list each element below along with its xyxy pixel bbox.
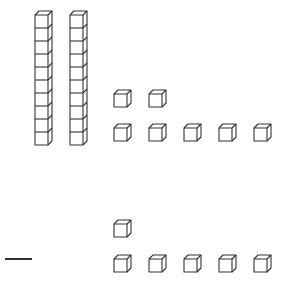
base-ten-diagram	[0, 0, 289, 285]
tens-rod	[34, 10, 53, 146]
unit-cube	[218, 254, 237, 273]
unit-cube	[148, 123, 167, 142]
unit-cube	[253, 254, 272, 273]
unit-cube	[113, 254, 132, 273]
unit-cube	[113, 123, 132, 142]
tens-rod	[69, 10, 88, 146]
unit-cube	[148, 89, 167, 108]
unit-cube	[183, 254, 202, 273]
unit-cube	[113, 219, 132, 238]
unit-cube	[218, 123, 237, 142]
unit-cube	[113, 89, 132, 108]
unit-cube	[253, 123, 272, 142]
minus-sign	[5, 258, 32, 260]
unit-cube	[148, 254, 167, 273]
unit-cube	[183, 123, 202, 142]
